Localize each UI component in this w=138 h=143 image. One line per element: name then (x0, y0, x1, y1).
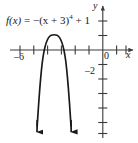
y-tick-label-neg2: –2 (85, 66, 95, 76)
function-curve (37, 35, 71, 132)
equation-tail: + 1 (73, 14, 90, 26)
origin-label: 0 (104, 51, 109, 61)
x-axis-label: x (126, 50, 130, 60)
function-equation-label: f(x) = −(x + 3)4 + 1 (6, 14, 90, 26)
equation-body: −(x + 3) (33, 14, 69, 26)
x-tick-label-neg6: –6 (14, 52, 24, 62)
x-axis (10, 46, 133, 55)
equation-equals: = (21, 14, 33, 26)
graph-figure: f(x) = −(x + 3)4 + 1 x y 0 –6 –2 (0, 0, 138, 143)
equation-arg: (x) (9, 14, 21, 26)
y-axis-label: y (93, 1, 97, 11)
y-axis (98, 6, 107, 138)
curve-path (37, 35, 71, 126)
